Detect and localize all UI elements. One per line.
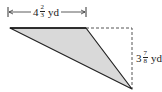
- height-fraction: 7 8: [143, 50, 149, 65]
- height-whole: 3: [136, 52, 142, 64]
- base-whole: 4: [33, 6, 39, 18]
- base-fraction: 2 3: [40, 4, 46, 19]
- height-unit: yd: [151, 52, 162, 64]
- height-denominator: 8: [144, 58, 148, 65]
- triangle-shape: [10, 28, 132, 89]
- triangle-diagram: [0, 0, 162, 92]
- base-label: 4 2 3 yd: [31, 4, 61, 19]
- height-label: 3 7 8 yd: [134, 50, 162, 65]
- base-unit: yd: [48, 6, 59, 18]
- base-denominator: 3: [41, 12, 45, 19]
